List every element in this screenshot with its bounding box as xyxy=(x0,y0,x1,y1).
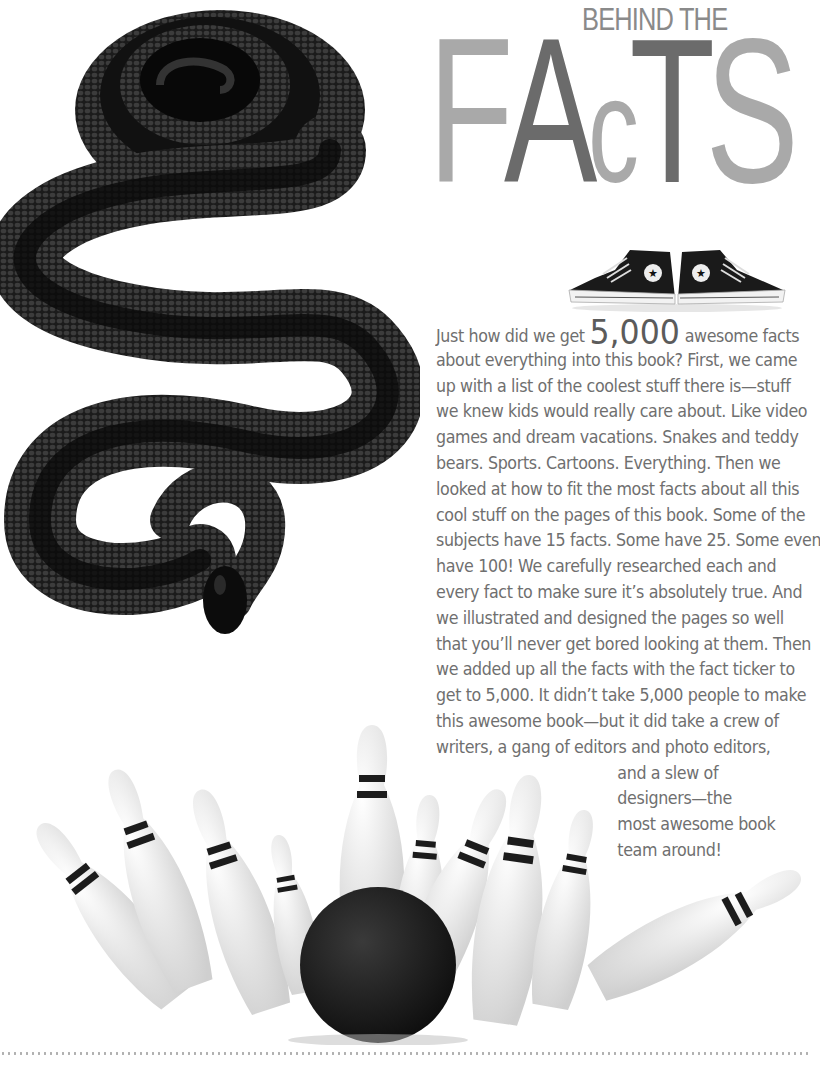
dotted-rule xyxy=(0,1052,808,1055)
svg-text:★: ★ xyxy=(648,267,658,280)
body-line: we illustrated and designed the pages so… xyxy=(436,606,789,632)
title-letter-a: A xyxy=(504,8,588,214)
body-line: cool stuff on the pages of this book. So… xyxy=(436,503,789,529)
lead-line: Just how did we get 5,000 awesome facts xyxy=(436,322,789,348)
lead-before: Just how did we get xyxy=(436,326,585,346)
title-letter-f: F xyxy=(428,8,504,214)
title-letter-t: T xyxy=(629,8,705,214)
body-line: we added up all the facts with the fact … xyxy=(436,657,789,683)
bowling-image xyxy=(0,715,820,1045)
body-line: bears. Sports. Cartoons. Everything. The… xyxy=(436,451,789,477)
big-number-5000: 5,000 xyxy=(589,312,680,352)
body-line: have 100! We carefully researched each a… xyxy=(436,554,789,580)
lead-after: awesome facts xyxy=(685,326,800,346)
sneakers-image: ★ ★ xyxy=(565,240,790,312)
body-line: about everything into this book? First, … xyxy=(436,348,789,374)
title-letter-s: S xyxy=(706,8,790,214)
body-line: up with a list of the coolest stuff ther… xyxy=(436,374,789,400)
body-line: games and dream vacations. Snakes and te… xyxy=(436,425,789,451)
svg-text:★: ★ xyxy=(696,267,706,280)
body-line: get to 5,000. It didn’t take 5,000 peopl… xyxy=(436,683,789,709)
body-line: we knew kids would really care about. Li… xyxy=(436,399,789,425)
body-line: every fact to make sure it’s absolutely … xyxy=(436,580,789,606)
body-line: subjects have 15 facts. Some have 25. So… xyxy=(436,528,789,554)
title-letter-c: c xyxy=(588,55,629,205)
body-line: looked at how to fit the most facts abou… xyxy=(436,477,789,503)
body-line: that you’ll never get bored looking at t… xyxy=(436,632,789,658)
page-title: FAcTS xyxy=(428,8,789,188)
snake-image xyxy=(0,0,420,640)
